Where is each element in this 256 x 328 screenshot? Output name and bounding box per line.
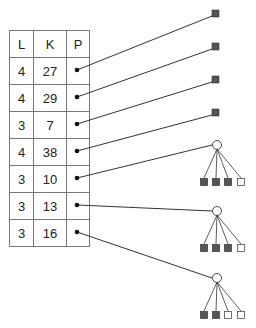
empty-leaf-icon [238,179,245,186]
tree-edge [217,282,228,311]
filled-leaf-icon [225,245,232,252]
pointer-line [77,82,212,124]
pointer-line [77,205,212,211]
empty-leaf-icon [238,245,245,252]
tree-edge [216,215,217,244]
pointer-dot-icon [75,122,80,127]
leaf-node-icon [212,109,219,116]
pointer-line [77,16,212,70]
pointer-line [77,49,212,97]
empty-leaf-icon [238,312,245,319]
tree-edge [217,215,241,244]
pointer-diagram [0,0,256,328]
tree-edge [217,149,228,178]
tree-edge [217,282,241,311]
filled-leaf-icon [201,245,208,252]
filled-leaf-icon [225,179,232,186]
tree-edge [204,282,217,311]
pointer-dot-icon [75,203,80,208]
internal-node-icon [213,274,222,283]
tree-edge [216,149,217,178]
filled-leaf-icon [213,245,220,252]
filled-leaf-icon [213,312,220,319]
internal-node-icon [213,141,222,150]
filled-leaf-icon [201,179,208,186]
pointer-line [77,115,212,151]
leaf-node-icon [212,10,219,17]
pointer-dot-icon [75,68,80,73]
tree-edge [204,149,217,178]
pointer-dot-icon [75,176,80,181]
empty-leaf-icon [225,312,232,319]
pointer-line [77,232,212,278]
tree-edge [204,215,217,244]
leaf-node-icon [212,76,219,83]
tree-edge [217,149,241,178]
tree-edge [216,282,217,311]
filled-leaf-icon [213,179,220,186]
pointer-dot-icon [75,230,80,235]
leaf-node-icon [212,43,219,50]
internal-node-icon [213,207,222,216]
filled-leaf-icon [201,312,208,319]
pointer-line [77,145,212,178]
tree-edge [217,215,228,244]
pointer-dot-icon [75,149,80,154]
pointer-dot-icon [75,95,80,100]
